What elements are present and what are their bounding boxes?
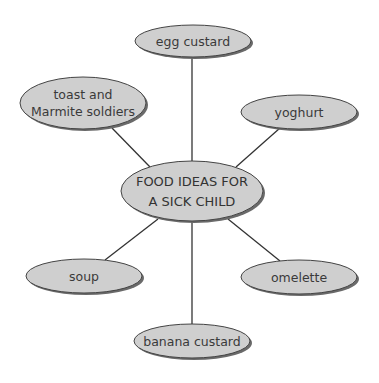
center-node-label: A SICK CHILD [149, 194, 236, 209]
node-egg-custard: egg custard [135, 25, 253, 59]
node-banana-custard-label: banana custard [143, 334, 240, 349]
center-node-label: FOOD IDEAS FOR [136, 174, 248, 189]
connector-line-omelette [228, 219, 280, 261]
node-omelette: omelette [241, 260, 359, 296]
center-node-ellipse [121, 161, 263, 221]
node-toast-and-marmite-soldiers-label: toast and [53, 87, 112, 102]
connector-line-soup [105, 219, 158, 260]
connector-line-yoghurt [236, 128, 280, 167]
node-yoghurt: yoghurt [241, 95, 359, 131]
node-toast-and-marmite-soldiers-ellipse [20, 77, 146, 129]
node-yoghurt-label: yoghurt [275, 105, 324, 120]
node-soup: soup [26, 259, 144, 295]
node-omelette-label: omelette [271, 270, 327, 285]
spider-diagram: FOOD IDEAS FORA SICK CHILDegg custardtoa… [0, 0, 379, 383]
center-node: FOOD IDEAS FORA SICK CHILD [121, 161, 265, 223]
connector-line-toast-and-marmite-soldiers [112, 128, 150, 167]
node-toast-and-marmite-soldiers: toast andMarmite soldiers [20, 77, 148, 131]
diagram-canvas: FOOD IDEAS FORA SICK CHILDegg custardtoa… [0, 0, 379, 383]
node-egg-custard-label: egg custard [156, 34, 230, 49]
node-toast-and-marmite-soldiers-label: Marmite soldiers [31, 104, 135, 119]
node-soup-label: soup [69, 269, 99, 284]
node-banana-custard: banana custard [134, 324, 252, 360]
